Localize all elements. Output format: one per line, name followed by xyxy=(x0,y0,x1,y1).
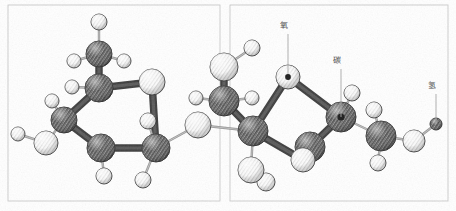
label-hydrogen: 氢 xyxy=(428,82,436,90)
figure-canvas: 氧 碳 氢 xyxy=(0,0,456,211)
molecular-model-diagram xyxy=(0,0,456,211)
label-carbon: 碳 xyxy=(333,57,341,65)
label-oxygen: 氧 xyxy=(280,22,288,30)
scan-grain xyxy=(0,0,456,211)
